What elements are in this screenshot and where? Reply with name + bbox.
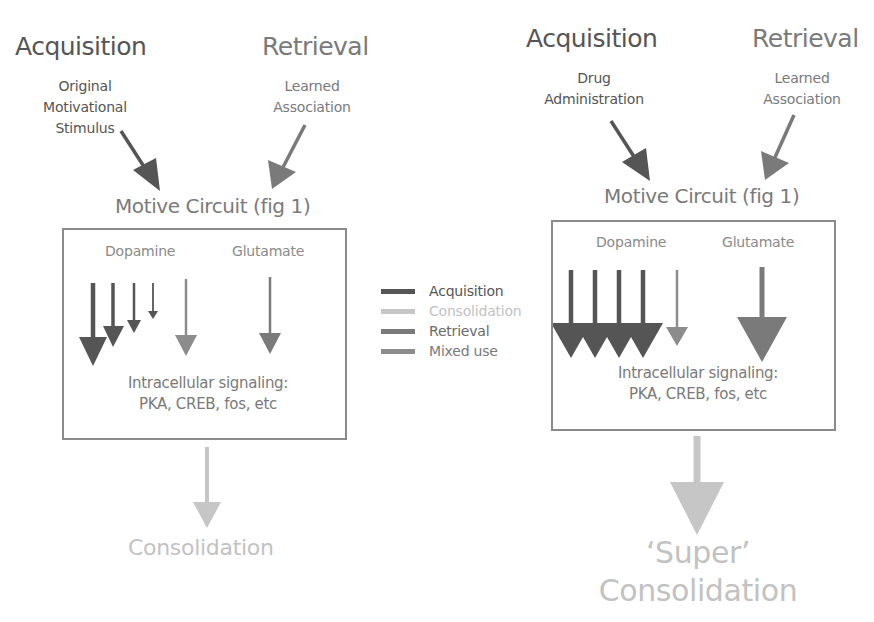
right-acquisition-sub-line-2: Administration [534, 89, 654, 110]
left-signaling-text: Intracellular signaling: PKA, CREB, fos,… [118, 373, 298, 415]
legend-swatch-mixed-use [381, 349, 415, 354]
legend-label-consolidation: Consolidation [429, 303, 522, 319]
left-retrieval-input-arrow [268, 125, 305, 189]
left-acquisition-title: Acquisition [15, 33, 146, 62]
right-retrieval-title: Retrieval [752, 25, 859, 54]
right-super-consolidation-label: ‘Super’ Consolidation [596, 534, 800, 610]
right-acquisition-subtitle: Drug Administration [534, 68, 654, 110]
left-acquisition-sub-line-2: Motivational [30, 97, 140, 118]
left-acquisition-subtitle: Original Motivational Stimulus [30, 76, 140, 139]
left-signaling-line-2: PKA, CREB, fos, etc [118, 394, 298, 415]
legend-swatch-retrieval [381, 329, 415, 334]
legend-item-consolidation: Consolidation [381, 301, 522, 321]
left-retrieval-subtitle: Learned Association [262, 76, 362, 118]
right-super-label-line-2: Consolidation [596, 572, 800, 610]
legend-label-acquisition: Acquisition [429, 283, 503, 299]
right-acquisition-sub-line-1: Drug [534, 68, 654, 89]
legend-item-acquisition: Acquisition [381, 281, 522, 301]
right-signaling-text: Intracellular signaling: PKA, CREB, fos,… [608, 363, 788, 405]
left-motive-circuit-title: Motive Circuit (fig 1) [115, 195, 310, 218]
left-retrieval-sub-line-1: Learned [262, 76, 362, 97]
legend-swatch-acquisition [381, 289, 415, 294]
right-retrieval-sub-line-2: Association [752, 89, 852, 110]
legend-swatch-consolidation [381, 309, 415, 314]
right-super-consolidation-arrow [670, 436, 724, 535]
left-signaling-line-1: Intracellular signaling: [118, 373, 298, 394]
left-retrieval-title: Retrieval [262, 33, 369, 62]
right-dopamine-label: Dopamine [596, 234, 666, 250]
left-consolidation-label: Consolidation [128, 535, 274, 560]
left-dopamine-label: Dopamine [105, 243, 175, 259]
right-glutamate-label: Glutamate [722, 234, 794, 250]
right-retrieval-input-arrow [761, 115, 794, 180]
right-super-label-line-1: ‘Super’ [596, 534, 800, 572]
right-retrieval-subtitle: Learned Association [752, 68, 852, 110]
left-acquisition-sub-line-1: Original [30, 76, 140, 97]
right-acquisition-input-arrow [611, 121, 650, 181]
left-acquisition-input-arrow [121, 131, 160, 191]
right-motive-circuit-title: Motive Circuit (fig 1) [604, 185, 799, 208]
left-retrieval-sub-line-2: Association [262, 97, 362, 118]
legend-item-mixed-use: Mixed use [381, 341, 522, 361]
left-glutamate-label: Glutamate [232, 243, 304, 259]
legend: Acquisition Consolidation Retrieval Mixe… [381, 281, 522, 361]
right-signaling-line-2: PKA, CREB, fos, etc [608, 384, 788, 405]
right-acquisition-title: Acquisition [526, 25, 657, 54]
left-acquisition-sub-line-3: Stimulus [30, 118, 140, 139]
right-signaling-line-1: Intracellular signaling: [608, 363, 788, 384]
legend-item-retrieval: Retrieval [381, 321, 522, 341]
left-consolidation-arrow [193, 447, 221, 528]
legend-label-mixed-use: Mixed use [429, 343, 498, 359]
right-retrieval-sub-line-1: Learned [752, 68, 852, 89]
legend-label-retrieval: Retrieval [429, 323, 489, 339]
